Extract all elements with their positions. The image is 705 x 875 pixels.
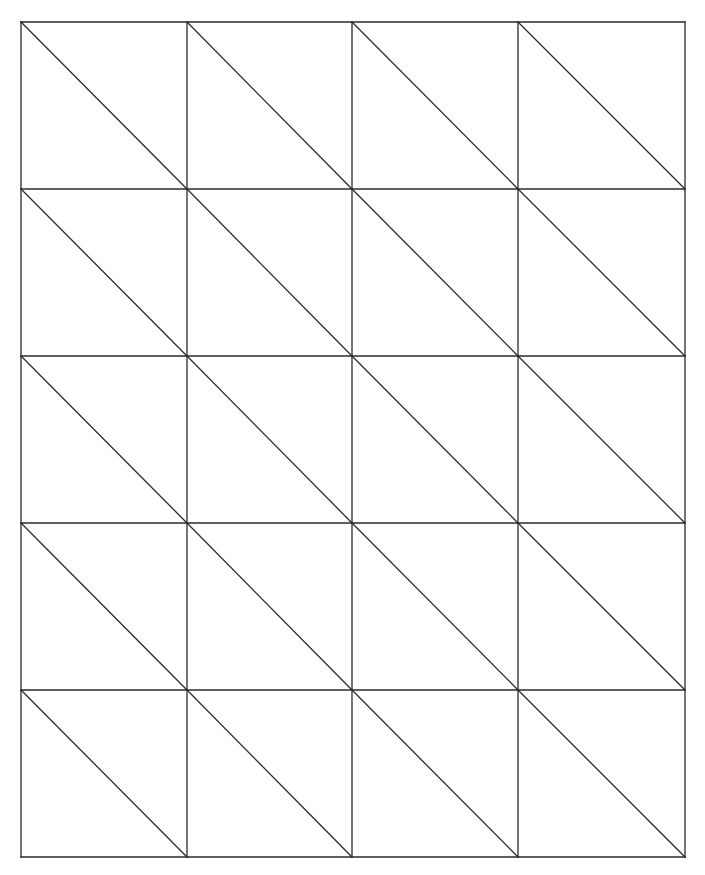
cell-diagonal-line <box>352 356 518 523</box>
cell-diagonal-line <box>187 356 352 523</box>
cell-diagonal-line <box>187 189 352 356</box>
cell-diagonal-line <box>21 690 187 857</box>
cell-diagonal-line <box>21 22 187 189</box>
cell-diagonal-line <box>187 523 352 690</box>
cell-diagonal-line <box>518 523 685 690</box>
grid-canvas <box>0 0 705 875</box>
cell-diagonal-line <box>518 22 685 189</box>
cell-diagonal-line <box>187 22 352 189</box>
cell-diagonal-line <box>21 189 187 356</box>
cell-diagonal-line <box>21 356 187 523</box>
cell-diagonal-line <box>21 523 187 690</box>
cell-diagonal-line <box>518 356 685 523</box>
cell-diagonal-line <box>352 22 518 189</box>
cell-diagonal-line <box>352 523 518 690</box>
cell-diagonal-line <box>352 189 518 356</box>
cell-diagonal-line <box>352 690 518 857</box>
cell-diagonal-line <box>187 690 352 857</box>
cell-diagonal-line <box>518 189 685 356</box>
cell-diagonal-line <box>518 690 685 857</box>
